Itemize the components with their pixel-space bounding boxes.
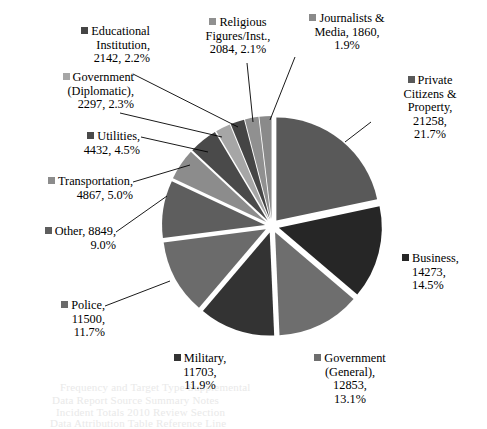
- label-business: Business, 14273, 14.5%: [402, 252, 487, 293]
- swatch-utilities: [87, 132, 94, 139]
- leader-line-utilities: [141, 137, 208, 152]
- label-utilities: Utilities, 4432, 4.5%: [0, 130, 140, 157]
- label-police: Police, 11500, 11.7%: [0, 299, 105, 340]
- leader-line-journalists-media: [270, 57, 295, 120]
- swatch-religious-figures: [209, 18, 216, 25]
- label-educational-institution: Educational Institution, 2142, 2.2%: [0, 25, 150, 66]
- swatch-transportation: [48, 177, 55, 184]
- leader-line-police: [105, 281, 170, 306]
- swatch-police: [61, 301, 68, 308]
- swatch-educational-institution: [81, 27, 88, 34]
- leader-line-private-citizens: [345, 122, 371, 142]
- swatch-government-diplomatic: [63, 73, 70, 80]
- swatch-journalists-media: [309, 14, 316, 21]
- label-other: Other, 8849, 9.0%: [0, 225, 116, 252]
- label-religious-figures: Religious Figures/Inst., 2084, 2.1%: [178, 16, 298, 57]
- label-government-general: Government (General), 12853, 13.1%: [291, 352, 409, 406]
- swatch-other: [45, 227, 52, 234]
- label-transportation: Transportation, 4867, 5.0%: [0, 175, 133, 202]
- swatch-private-citizens: [408, 76, 415, 83]
- label-journalists-media: Journalists & Media, 1860, 1.9%: [288, 12, 406, 53]
- swatch-business: [402, 254, 409, 261]
- label-private-citizens: Private Citizens & Property, 21258, 21.7…: [376, 74, 484, 142]
- leader-line-religious-figures: [247, 63, 253, 122]
- label-military: Military, 11703, 11.9%: [148, 352, 252, 393]
- label-government-diplomatic: Government (Diplomatic), 2297, 2.3%: [0, 71, 134, 112]
- swatch-government-general: [314, 354, 321, 361]
- pie-slice[interactable]: [276, 118, 377, 221]
- swatch-military: [174, 354, 181, 361]
- leader-line-educational-institution: [133, 74, 238, 127]
